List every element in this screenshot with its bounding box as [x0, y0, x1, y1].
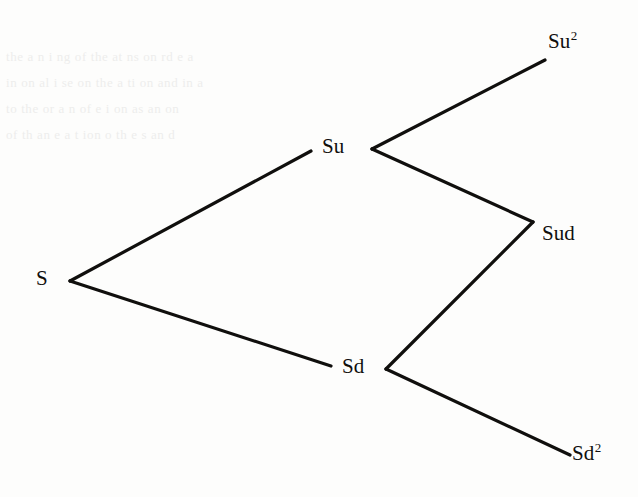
edge-s-sd	[70, 281, 331, 366]
edge-su-su2	[372, 60, 545, 149]
edge-su-sud	[372, 149, 533, 222]
node-label-sd: Sd	[342, 356, 364, 377]
node-label-su-squared: Su2	[548, 31, 577, 52]
tree-branches	[0, 0, 638, 497]
edge-sd-sud	[386, 222, 533, 369]
node-label-sd-squared: Sd2	[572, 443, 601, 464]
node-label-sud: Sud	[542, 223, 575, 244]
edge-s-su	[70, 151, 311, 281]
binomial-tree-figure: the a n i ng of the at ns on rd e a in o…	[0, 0, 638, 497]
edge-sd-sd2	[386, 369, 570, 455]
node-label-su: Su	[322, 136, 344, 157]
node-label-s: S	[36, 268, 48, 289]
